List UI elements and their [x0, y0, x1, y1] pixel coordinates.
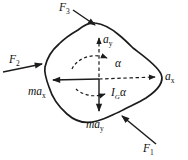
- f2-force-arrow: [3, 64, 42, 72]
- max-label: max: [28, 85, 46, 100]
- mechanics-diagram: F3 F2 F1 ay ax max may α IGα: [0, 0, 188, 160]
- f3-force-arrow: [73, 10, 95, 25]
- diagram-canvas: F3 F2 F1 ay ax max may α IGα: [0, 0, 188, 160]
- alpha-label: α: [115, 57, 122, 69]
- f1-label: F1: [142, 142, 154, 157]
- alpha-rotation-arc: [72, 56, 107, 69]
- ay-label: ay: [103, 33, 113, 48]
- f2-label: F2: [8, 53, 20, 68]
- ax-acceleration-vector: [99, 77, 155, 79]
- inertia-moment-arc: [76, 89, 105, 96]
- f3-label: F3: [58, 1, 70, 16]
- ax-label: ax: [165, 70, 175, 85]
- f1-force-arrow: [122, 116, 156, 144]
- inertia-alpha-label: IGα: [110, 86, 127, 101]
- max-inertia-vector: [53, 79, 99, 80]
